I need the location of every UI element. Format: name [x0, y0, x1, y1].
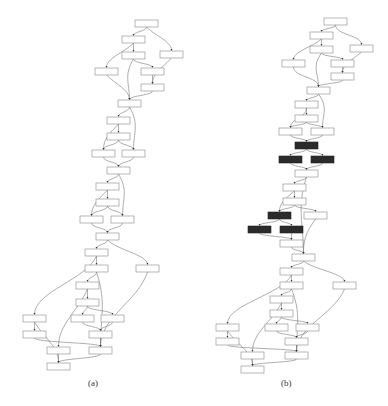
- graph-edge: [108, 240, 148, 265]
- graph-edge: [307, 94, 319, 101]
- graph-node: [295, 170, 318, 177]
- graph-node: [280, 282, 303, 289]
- graph-edge: [322, 25, 336, 32]
- graph-node: [23, 315, 46, 322]
- graph-edge: [280, 205, 295, 212]
- graph-node: [89, 347, 112, 354]
- graph-node: [76, 282, 99, 289]
- graph-edge: [92, 223, 108, 233]
- highlighted-graph-node: [295, 142, 318, 149]
- graph-node: [80, 216, 103, 223]
- graph-node: [216, 324, 239, 331]
- graph-node: [76, 299, 99, 306]
- graph-edge: [292, 261, 304, 268]
- graph-edge: [260, 233, 292, 240]
- highlighted-graph-node: [311, 156, 334, 163]
- graph-edge: [304, 261, 345, 282]
- graph-edge: [147, 27, 172, 51]
- graph-node: [135, 20, 158, 27]
- graph-edge: [228, 331, 253, 366]
- graph-node: [47, 363, 70, 370]
- graph-node: [96, 199, 119, 206]
- graph-node: [85, 265, 108, 272]
- graph-edge: [130, 107, 136, 150]
- graph-node: [141, 84, 164, 91]
- graph-edge: [59, 354, 101, 363]
- graph-node: [265, 324, 288, 331]
- graph-edge: [282, 317, 308, 324]
- graph-node: [216, 338, 239, 345]
- graph-node: [285, 338, 308, 345]
- graph-edge: [134, 27, 147, 36]
- figure-canvas: [0, 0, 388, 406]
- graph-node: [307, 87, 330, 94]
- graph-node: [304, 212, 327, 219]
- graph-node: [241, 366, 264, 373]
- graph-edge: [92, 206, 108, 216]
- graph-edge: [307, 149, 323, 156]
- graph-node: [111, 216, 134, 223]
- graph-node: [331, 60, 354, 67]
- graph-edge: [119, 140, 134, 150]
- graph-edge: [35, 338, 101, 347]
- graph-node: [295, 101, 318, 108]
- graph-node: [296, 324, 319, 331]
- graph-node: [96, 183, 119, 190]
- caption-panel-a: (a): [88, 378, 98, 388]
- graph-edge: [291, 122, 307, 128]
- graph-edge: [108, 206, 123, 216]
- graph-edge: [260, 219, 280, 226]
- graph-edge: [134, 59, 153, 68]
- edge-layer-a: [35, 27, 172, 363]
- highlighted-graph-node: [280, 226, 303, 233]
- graph-node: [85, 249, 108, 256]
- graph-node: [107, 167, 130, 174]
- graph-edge: [291, 163, 307, 170]
- graph-edge: [297, 331, 308, 338]
- graph-node: [283, 184, 306, 191]
- graph-node: [47, 347, 70, 354]
- graph-edge: [294, 67, 319, 87]
- graph-node: [333, 282, 356, 289]
- graph-edge: [319, 94, 325, 128]
- graph-edge: [83, 306, 88, 315]
- graph-edge: [119, 174, 125, 216]
- graph-node: [295, 115, 318, 122]
- graph-edge: [319, 80, 343, 87]
- graph-node: [285, 352, 308, 359]
- graph-node: [241, 352, 264, 359]
- graph-edge: [119, 157, 134, 167]
- graph-edge: [104, 157, 119, 167]
- graph-edge: [307, 122, 323, 128]
- graph-node: [96, 233, 119, 240]
- graph-node: [280, 268, 303, 275]
- graph-edge: [119, 107, 130, 117]
- graph-node: [141, 68, 164, 75]
- graph-node: [89, 331, 112, 338]
- graph-edge: [322, 53, 343, 60]
- graph-panel-b: [216, 18, 373, 373]
- graph-node: [136, 265, 159, 272]
- graph-node: [331, 73, 354, 80]
- graph-edge: [277, 317, 282, 324]
- graph-node: [292, 254, 315, 261]
- graph-edge: [291, 135, 307, 142]
- caption-panel-b: (b): [281, 378, 292, 388]
- graph-edge: [83, 322, 101, 331]
- graph-edge: [104, 140, 119, 150]
- graph-node: [92, 150, 115, 157]
- graph-edge: [291, 149, 307, 156]
- highlighted-graph-node: [268, 212, 291, 219]
- graph-edge: [35, 322, 59, 363]
- graph-edge: [277, 331, 297, 338]
- graph-edge: [108, 174, 119, 183]
- graph-node: [283, 198, 306, 205]
- graph-node: [270, 296, 293, 303]
- graph-node: [107, 117, 130, 124]
- graph-edge: [253, 359, 297, 366]
- graph-node: [280, 240, 303, 247]
- graph-edge: [307, 163, 323, 170]
- graph-node: [310, 32, 333, 39]
- graph-node: [118, 100, 141, 107]
- graph-edge: [228, 345, 297, 352]
